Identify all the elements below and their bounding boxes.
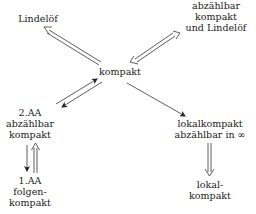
double-arrow-kompakt-to-lindeloef bbox=[44, 27, 101, 65]
double-arrow-bidirectional-abz-lindeloef-kompakt bbox=[130, 31, 180, 64]
double-arrow-lokalkompakt-abz-to-lokalkompakt bbox=[205, 143, 214, 176]
diagram-arrows bbox=[0, 0, 256, 214]
double-arrow-1aa-to-2aa bbox=[32, 143, 40, 173]
arrow-kompakt-to-lokalkompakt-abz bbox=[127, 83, 185, 116]
arrow-kompakt-to-2aa bbox=[62, 82, 102, 107]
arrow-2aa-to-kompakt bbox=[56, 79, 97, 104]
